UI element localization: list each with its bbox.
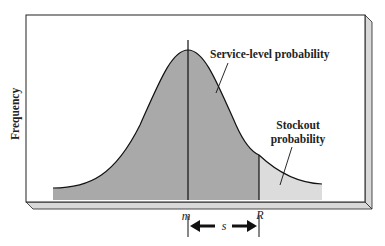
reorder-point-marker: R — [255, 208, 264, 222]
stockout-label-line2: probability — [271, 133, 326, 146]
y-axis-label: Frequency — [9, 88, 22, 140]
stockout-label-line1: Stockout — [276, 119, 320, 131]
frame-right-edge — [365, 15, 372, 209]
mean-marker: m — [182, 209, 191, 223]
frame-bottom-edge — [26, 202, 372, 209]
spread-marker: s — [222, 219, 227, 233]
service-level-diagram: Service-level probability Stockout proba… — [0, 0, 385, 246]
arrow-left-head — [190, 220, 200, 232]
service-level-label: Service-level probability — [210, 48, 330, 61]
